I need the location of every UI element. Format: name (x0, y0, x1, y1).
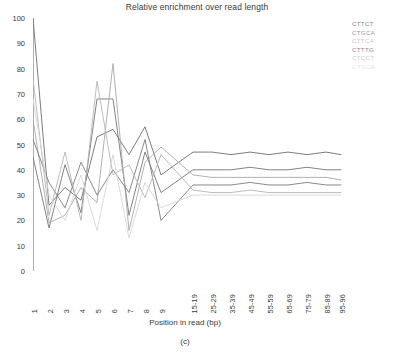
x-tick-label: 25-29 (209, 294, 218, 313)
y-tick-label: 50 (17, 140, 25, 149)
x-tick-label: 8 (142, 309, 151, 313)
x-tick-label: 2 (46, 309, 55, 313)
plot-area (33, 18, 345, 271)
y-tick-label: 60 (17, 115, 25, 124)
x-tick-label: 95-96 (338, 294, 347, 313)
legend-entry[interactable]: CTTCT (352, 20, 394, 29)
legend: CTTCTCTGCACTTCACTTTGCTCCTCTGCA (352, 20, 394, 72)
x-tick-label: 55-59 (266, 294, 275, 313)
x-tick-label: 45-49 (247, 294, 256, 313)
x-tick-label: 9 (158, 309, 167, 313)
chart-title: Relative enrichment over read length (0, 2, 394, 12)
legend-entry[interactable]: CTTTG (352, 46, 394, 55)
x-axis: 12345678915-1925-2935-3945-4955-5965-697… (33, 273, 345, 313)
y-tick-label: 70 (17, 89, 25, 98)
x-tick-label: 75-79 (304, 294, 313, 313)
x-tick-label: 15-19 (190, 294, 199, 313)
series-line (33, 99, 341, 228)
x-tick-label: 3 (62, 309, 71, 313)
y-tick-label: 20 (17, 216, 25, 225)
legend-entry[interactable]: CTGCA (352, 63, 394, 72)
y-tick-label: 30 (17, 191, 25, 200)
x-tick-label: 6 (110, 309, 119, 313)
figure-container: Relative enrichment over read length 010… (0, 0, 394, 355)
x-tick-label: 65-69 (285, 294, 294, 313)
y-tick-label: 10 (17, 241, 25, 250)
x-tick-label: 85-89 (323, 294, 332, 313)
legend-entry[interactable]: CTCCT (352, 54, 394, 63)
legend-entry[interactable]: CTTCA (352, 37, 394, 46)
x-axis-title: Position in read (bp) (0, 318, 370, 327)
series-line (33, 64, 341, 231)
y-axis: 0102030405060708090100 (0, 18, 29, 271)
line-chart-svg (33, 18, 345, 271)
x-tick-label: 4 (78, 309, 87, 313)
y-tick-label: 100 (12, 14, 25, 23)
y-tick-label: 90 (17, 39, 25, 48)
legend-entry[interactable]: CTGCA (352, 29, 394, 38)
x-tick-label: 35-39 (228, 294, 237, 313)
y-tick-label: 80 (17, 64, 25, 73)
figure-caption: (c) (0, 337, 370, 346)
y-tick-label: 0 (21, 267, 25, 276)
y-tick-label: 40 (17, 165, 25, 174)
x-tick-label: 7 (126, 309, 135, 313)
x-tick-label: 5 (94, 309, 103, 313)
x-tick-label: 1 (30, 309, 39, 313)
